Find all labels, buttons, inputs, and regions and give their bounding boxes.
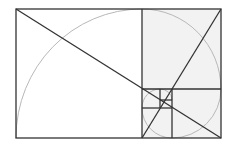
golden-ratio-diagram bbox=[0, 0, 238, 145]
